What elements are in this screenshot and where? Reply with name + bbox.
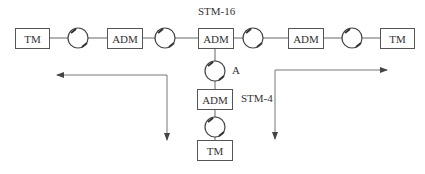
regenerator-bottom-icon bbox=[205, 117, 225, 137]
regenerator-icon bbox=[68, 28, 88, 48]
stm16-label: STM-16 bbox=[198, 5, 235, 17]
right-flow-arrow bbox=[275, 70, 387, 139]
stm4-label: STM-4 bbox=[241, 92, 273, 104]
regenerator-icon bbox=[342, 28, 362, 48]
left-flow-arrow bbox=[57, 75, 167, 140]
adm-center-node: ADM bbox=[198, 28, 234, 49]
tm-left-node: TM bbox=[15, 28, 50, 49]
point-a-label: A bbox=[232, 64, 240, 76]
tm-bottom-node: TM bbox=[197, 140, 233, 161]
adm-left-node: ADM bbox=[107, 28, 143, 49]
regenerator-icon bbox=[243, 28, 263, 48]
sdh-network-diagram: TM ADM ADM ADM TM ADM TM STM-16 STM-4 A bbox=[0, 0, 425, 174]
regenerator-a-icon bbox=[205, 61, 225, 81]
tm-right-node: TM bbox=[380, 28, 415, 49]
regenerator-icon bbox=[155, 28, 175, 48]
adm-lower-node: ADM bbox=[197, 89, 233, 110]
adm-right-node: ADM bbox=[288, 28, 324, 49]
